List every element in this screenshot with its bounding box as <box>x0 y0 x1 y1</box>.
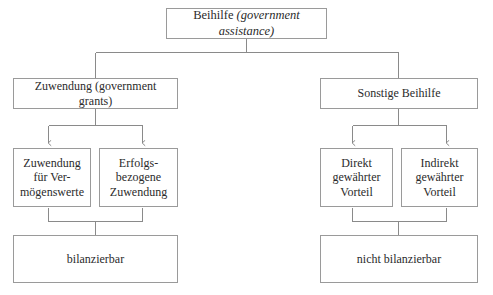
node-indirekt-gewaehrter-vorteil-label: Indirekt gewährter Vorteil <box>412 156 468 200</box>
node-beihilfe-root: Beihilfe (government assistance) <box>166 8 327 39</box>
node-bilanzierbar: bilanzierbar <box>13 235 178 283</box>
node-direkt-gewaehrter-vorteil: Direkt gewährter Vorteil <box>320 148 393 207</box>
node-zuwendung-branch-term: Zuwendung <box>35 79 92 93</box>
node-sonstige-beihilfe-branch-label: Sonstige Beihilfe <box>354 86 445 101</box>
node-nicht-bilanzierbar-label: nicht bilanzierbar <box>353 252 445 267</box>
node-indirekt-gewaehrter-vorteil: Indirekt gewährter Vorteil <box>401 148 478 207</box>
node-bilanzierbar-label: bilanzierbar <box>63 252 128 267</box>
connector-grants-to-leaves <box>49 109 143 144</box>
node-beihilfe-root-label: Beihilfe (government assistance) <box>167 8 326 39</box>
node-beihilfe-root-term: Beihilfe <box>193 8 233 22</box>
connector-left-leaves-to-result <box>49 208 143 235</box>
node-direkt-gewaehrter-vorteil-label: Direkt gewährter Vorteil <box>329 156 385 200</box>
connector-right-leaves-to-result <box>353 208 447 235</box>
node-nicht-bilanzierbar: nicht bilanzierbar <box>320 235 478 283</box>
node-zuwendung-fuer-vermoegenswerte-label: Zuwendung für Ver- mögenswerte <box>16 156 88 200</box>
beihilfe-taxonomy-diagram: Beihilfe (government assistance) Zuwendu… <box>0 0 493 295</box>
connector-other-to-leaves <box>353 109 447 144</box>
node-zuwendung-branch-label: Zuwendung (government grants) <box>14 79 177 108</box>
node-zuwendung-branch: Zuwendung (government grants) <box>13 78 178 109</box>
connector-root-to-branches <box>96 39 399 78</box>
node-sonstige-beihilfe-branch: Sonstige Beihilfe <box>320 78 478 109</box>
node-erfolgsbezogene-zuwendung: Erfolgs- bezogene Zuwendung <box>99 148 178 207</box>
node-zuwendung-fuer-vermoegenswerte: Zuwendung für Ver- mögenswerte <box>13 148 91 207</box>
node-erfolgsbezogene-zuwendung-label: Erfolgs- bezogene Zuwendung <box>106 156 171 200</box>
